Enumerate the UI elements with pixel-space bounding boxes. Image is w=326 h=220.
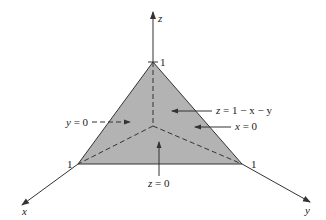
x-axis <box>22 164 78 205</box>
annotation-z-equals-0: z = 0 <box>147 177 170 189</box>
triangle-plane-diagram: z x y 1 1 1 y = 0 z = 1 − x − y x = 0 z … <box>0 0 326 220</box>
z-axis-label: z <box>157 12 163 24</box>
y-axis-label: y <box>304 204 310 216</box>
annotation-x-equals-0: x = 0 <box>234 120 258 132</box>
z-tick-label: 1 <box>160 56 166 68</box>
x-axis-label: x <box>21 205 27 217</box>
y-tick-label: 1 <box>251 158 257 170</box>
annotation-y-equals-0: y = 0 <box>65 116 89 128</box>
annotation-plane-equation: z = 1 − x − y <box>215 104 272 116</box>
x-tick-label: 1 <box>67 158 73 170</box>
